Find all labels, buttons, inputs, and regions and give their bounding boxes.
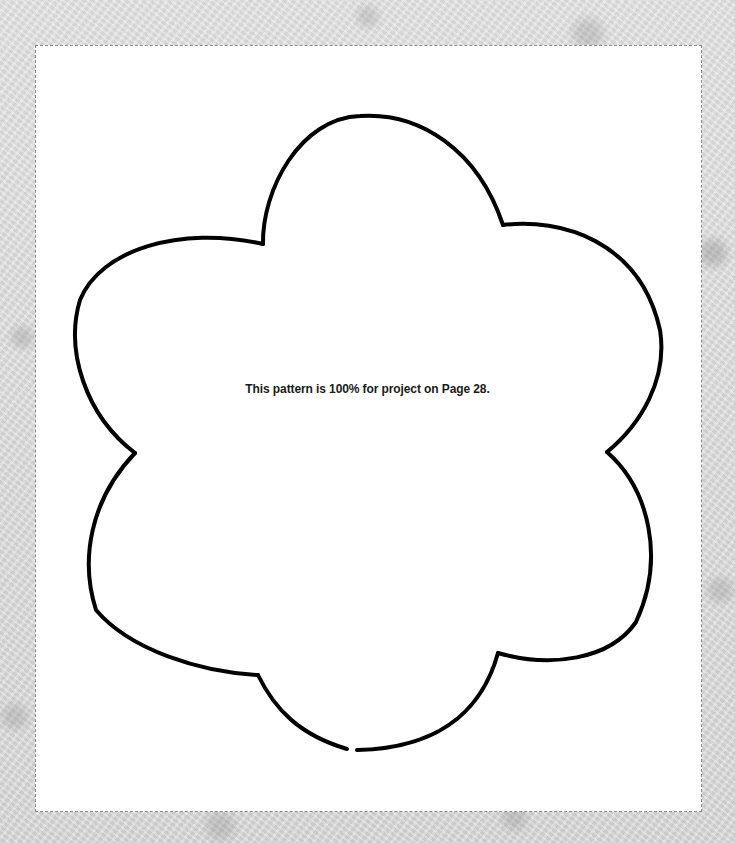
petal-bottom-right-half — [357, 653, 498, 750]
petal-upper-right — [503, 224, 661, 452]
petal-lower-left — [89, 453, 258, 675]
petal-top — [263, 116, 503, 244]
pattern-caption: This pattern is 100% for project on Page… — [0, 382, 735, 396]
flower-pattern-outline — [0, 0, 735, 843]
petal-upper-left — [75, 238, 263, 453]
petal-lower-right — [498, 452, 651, 660]
petal-bottom-left-half — [258, 675, 347, 749]
